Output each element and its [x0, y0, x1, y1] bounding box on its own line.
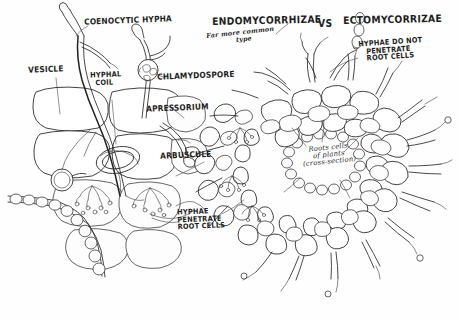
diagram-canvas: ENDOMYCORRHIZAE VS ECTOMYCORRIZAE Far mo…	[0, 0, 461, 321]
label-arbuscule: ARBUSCULE	[160, 150, 212, 160]
label-appressorium: APRESSORIUM	[146, 103, 209, 114]
label-hyphal-coil: HYPHAL COIL	[90, 71, 122, 87]
title-ectomycorrhizae: ECTOMYCORRIZAE	[343, 13, 442, 26]
title-vs: VS	[318, 18, 332, 28]
label-hyphae-do-not-penetrate-root-cells: HYPHAE DO NOT PENETRATE ROOT CELLS	[358, 37, 424, 64]
label-vesicle: VESICLE	[28, 65, 64, 75]
label-hyphae-penetrate-root-cells: HYPHAE PENETRATE ROOT CELLS	[177, 207, 225, 231]
